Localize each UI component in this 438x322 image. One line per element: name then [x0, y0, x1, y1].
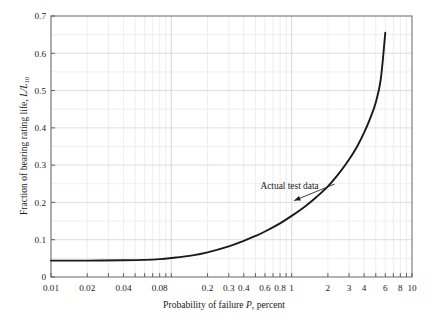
x-tick-label: 0.01	[43, 283, 59, 293]
x-tick-label: 0.04	[115, 283, 131, 293]
x-tick-label: 0.2	[202, 283, 214, 293]
x-tick-label: 2	[326, 283, 331, 293]
x-tick-label: 4	[362, 283, 367, 293]
x-tick-label: 3	[347, 283, 352, 293]
svg-text:Fraction of bearing rating lif: Fraction of bearing rating life, L/L10	[18, 76, 30, 215]
figure-background	[0, 0, 438, 322]
x-tick-label: 0.3	[223, 283, 235, 293]
x-tick-label: 10	[407, 283, 417, 293]
x-axis-title-pre: Probability of failure	[163, 299, 246, 310]
x-tick-label: 0.6	[259, 283, 271, 293]
y-tick-label: 0.4	[35, 123, 47, 133]
x-tick-label: 0.08	[152, 283, 168, 293]
y-axis-title-variable: L/L	[18, 83, 29, 97]
x-tick-label: 0.02	[79, 283, 95, 293]
x-axis-title-post: , percent	[252, 299, 285, 310]
y-tick-label: 0	[41, 272, 46, 282]
x-tick-label: 0.4	[238, 283, 250, 293]
semilog-plot: 00.10.20.30.40.50.60.7 0.010.020.040.080…	[0, 0, 438, 322]
y-tick-label: 0.6	[35, 49, 47, 59]
x-axis-title: Probability of failure P, percent	[163, 299, 285, 310]
y-tick-label: 0.7	[35, 11, 47, 21]
x-tick-label: 8	[398, 283, 403, 293]
y-tick-label: 0.1	[35, 235, 47, 245]
y-axis-title-subscript: 10	[23, 76, 30, 83]
x-tick-label: 6	[383, 283, 388, 293]
y-tick-label: 0.5	[35, 86, 47, 96]
y-tick-label: 0.2	[35, 198, 47, 208]
y-axis-title-main: Fraction of bearing rating life,	[18, 97, 29, 215]
y-axis-title: Fraction of bearing rating life, L/L10	[18, 76, 30, 215]
annotation-label: Actual test data	[260, 181, 319, 191]
x-tick-label: 1	[289, 283, 294, 293]
x-tick-label: 0.8	[274, 283, 286, 293]
chart-figure: 00.10.20.30.40.50.60.7 0.010.020.040.080…	[0, 0, 438, 322]
y-tick-label: 0.3	[35, 160, 47, 170]
